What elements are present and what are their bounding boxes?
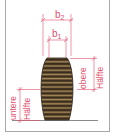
barrel-diagram: b2 b1 obere Hälfte untere Hälfte [0, 0, 121, 137]
b2-label: b2 [55, 9, 65, 21]
lower-half-label-line1: untere [8, 96, 18, 120]
upper-half-label-line1: obere [78, 67, 88, 89]
b1-label: b1 [52, 28, 62, 40]
upper-half-label-line2: Hälfte [95, 67, 105, 89]
lower-half-label-line2: Hälfte [22, 98, 32, 120]
barrel-shape [41, 58, 73, 120]
